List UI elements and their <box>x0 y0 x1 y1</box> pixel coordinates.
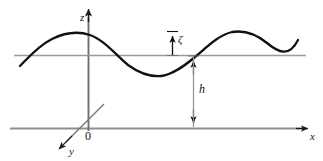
y-axis <box>59 104 104 149</box>
origin-label: 0 <box>85 130 91 142</box>
free-surface-curve <box>20 31 298 76</box>
figure-canvas <box>0 0 323 161</box>
x-axis-label: x <box>310 131 315 142</box>
wave-diagram-figure: z x y ζ h 0 <box>0 0 323 161</box>
wave-elevation-label: ζ <box>178 34 182 45</box>
y-axis-label: y <box>69 146 74 157</box>
wave-elevation-dimension <box>167 32 178 56</box>
water-depth-dimension <box>188 56 199 127</box>
z-axis-label: z <box>80 12 84 23</box>
water-depth-label: h <box>199 83 205 95</box>
